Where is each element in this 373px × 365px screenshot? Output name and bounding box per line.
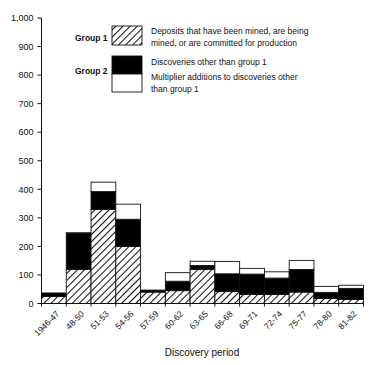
y-axis-tick-label: 100	[18, 270, 33, 280]
legend-group1-label: Group 1	[75, 33, 108, 43]
bar-segment	[116, 204, 141, 219]
bar-segment	[240, 268, 265, 274]
y-axis-tick-label: 500	[18, 156, 33, 166]
bar-stack	[66, 233, 91, 304]
bar-chart: 01002003004005006007008009001,000 1946-4…	[0, 0, 373, 365]
bar-segment	[264, 272, 289, 278]
bar-stack	[190, 261, 215, 303]
bar-segment	[215, 262, 240, 274]
bar-segment	[165, 273, 190, 282]
bar-segment	[190, 269, 215, 303]
white-swatch	[112, 74, 142, 92]
bar-segment	[190, 266, 215, 270]
bar-stack	[141, 290, 166, 303]
bar-stack	[339, 285, 364, 303]
bar-segment	[190, 261, 215, 265]
bar-stack	[264, 272, 289, 304]
y-axis-tick-label: 900	[18, 42, 33, 52]
bar-segment	[289, 292, 314, 303]
legend-group2-label: Group 2	[75, 66, 108, 76]
y-axis-tick-label: 300	[18, 213, 33, 223]
bar-segment	[91, 192, 116, 210]
y-axis-tick-label: 200	[18, 242, 33, 252]
bar-stack	[165, 273, 190, 304]
bar-segment	[66, 234, 91, 270]
bar-segment	[42, 293, 67, 296]
bar-segment	[91, 209, 116, 303]
bar-segment	[289, 270, 314, 293]
bar-segment	[215, 292, 240, 304]
bar-segment	[141, 292, 166, 303]
bar-segment	[289, 260, 314, 269]
y-axis-tick-label: 600	[18, 127, 33, 137]
y-axis-tick-label: 0	[28, 299, 33, 309]
bar-segment	[116, 219, 141, 246]
y-axis-tick-label: 800	[18, 70, 33, 80]
chart-background	[0, 0, 373, 365]
bar-segment	[264, 278, 289, 294]
hatched-swatch	[112, 26, 142, 45]
bar-stack	[42, 293, 67, 304]
bar-segment	[66, 269, 91, 303]
bar-stack	[314, 286, 339, 303]
bar-segment	[165, 281, 190, 290]
bar-segment	[42, 296, 67, 303]
bar-segment	[141, 290, 166, 291]
bar-segment	[240, 274, 265, 294]
legend-entry-0-line1: Deposits that have been mined, are being	[151, 26, 309, 36]
bar-stack	[289, 260, 314, 303]
bar-segment	[91, 182, 116, 191]
bar-stack	[240, 268, 265, 303]
bar-segment	[314, 286, 339, 292]
bar-segment	[66, 233, 91, 234]
legend-entry-0-line2: mined, or are committed for production	[151, 38, 297, 48]
legend-entry-1-line1: Discoveries other than group 1	[151, 57, 267, 67]
y-axis-tick-label: 400	[18, 185, 33, 195]
bar-segment	[314, 298, 339, 303]
legend-entry-2-line1: Multiplier additions to discoveries othe…	[151, 72, 298, 82]
bar-segment	[339, 285, 364, 288]
bar-segment	[116, 246, 141, 303]
bar-stack	[91, 182, 116, 303]
y-axis-tick-label: 700	[18, 99, 33, 109]
bar-segment	[339, 288, 364, 299]
bar-segment	[240, 294, 265, 303]
y-axis-tick-label: 1,000	[11, 13, 34, 23]
bar-segment	[339, 300, 364, 304]
bar-stack	[116, 204, 141, 303]
bar-segment	[264, 294, 289, 303]
bar-segment	[314, 292, 339, 298]
legend-entry-2-line2: than group 1	[151, 84, 199, 94]
black-swatch	[112, 56, 142, 74]
bar-segment	[215, 274, 240, 292]
chart-canvas: 01002003004005006007008009001,000 1946-4…	[0, 0, 373, 365]
x-axis-title: Discovery period	[165, 347, 239, 358]
bar-stack	[215, 262, 240, 304]
bar-segment	[165, 291, 190, 304]
